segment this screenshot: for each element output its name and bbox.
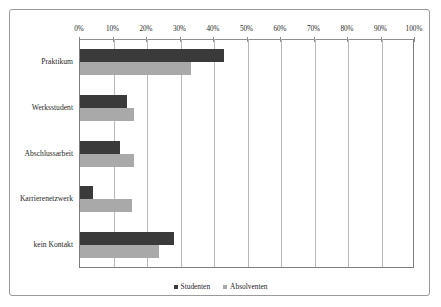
x-axis-tick-label: 10%	[106, 23, 119, 35]
category-label: Abschlussarbeit	[10, 149, 73, 159]
category-label: kein Kontakt	[10, 240, 73, 250]
legend-swatch-icon	[174, 285, 178, 289]
x-axis-tick-label: 60%	[273, 23, 286, 35]
category-label: Werksstudent	[10, 103, 73, 113]
category-label: Praktikum	[10, 57, 73, 67]
category-label: Karrierenetzwerk	[10, 194, 73, 204]
legend-swatch-icon	[223, 285, 227, 289]
legend-label: Studenten	[181, 282, 211, 291]
chart-figure: 0%10%20%30%40%50%60%70%80%90%100% Prakti…	[9, 9, 430, 296]
x-axis-tick-label: 50%	[240, 23, 253, 35]
x-axis-tick-label: 20%	[139, 23, 152, 35]
x-axis-tick-label: 0%	[74, 23, 84, 35]
category-axis-labels: PraktikumWerksstudentAbschlussarbeitKarr…	[10, 39, 431, 268]
chart-legend: StudentenAbsolventen	[10, 282, 431, 291]
x-axis-tick-label: 90%	[374, 23, 387, 35]
legend-entry[interactable]: Absolventen	[223, 282, 267, 291]
horizontal-bar-chart: 0%10%20%30%40%50%60%70%80%90%100% Prakti…	[10, 10, 431, 297]
legend-label: Absolventen	[230, 282, 267, 291]
x-axis-tick-label: 80%	[340, 23, 353, 35]
x-axis-tick-labels: 0%10%20%30%40%50%60%70%80%90%100%	[79, 23, 414, 35]
legend-entry[interactable]: Studenten	[174, 282, 211, 291]
x-axis-tick-label: 40%	[206, 23, 219, 35]
x-axis-tick-label: 70%	[307, 23, 320, 35]
x-axis-tick-label: 30%	[173, 23, 186, 35]
x-axis-tick-label: 100%	[406, 23, 423, 35]
